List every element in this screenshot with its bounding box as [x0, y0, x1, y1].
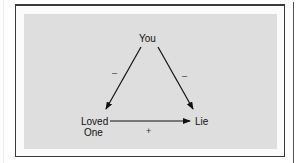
- sign-bottom-edge: +: [146, 127, 151, 136]
- arrow-you-to-loved-one: [106, 47, 141, 109]
- node-lie: Lie: [195, 116, 208, 127]
- sign-left-edge: –: [112, 69, 117, 78]
- arrow-you-to-lie: [158, 47, 193, 109]
- node-loved-one-line1: Loved: [81, 116, 108, 127]
- node-loved-one-line2: One: [84, 127, 103, 138]
- sign-right-edge: –: [182, 72, 187, 81]
- node-you: You: [139, 33, 156, 44]
- arrows-layer: [0, 0, 296, 163]
